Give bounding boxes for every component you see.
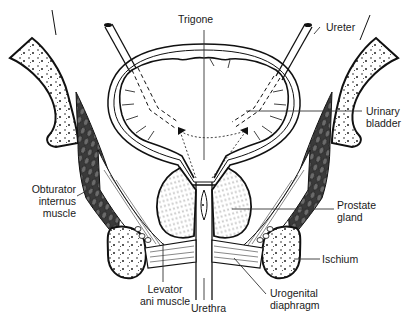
diagram-drawing [0,0,408,317]
label-ischium: Ischium [322,253,358,265]
label-levator-ani: Levator ani muscle [135,283,195,307]
label-urethra: Urethra [191,302,226,314]
label-urogenital-diaphragm: Urogenital diaphragm [270,287,320,311]
label-ureter: Ureter [326,21,355,33]
label-trigone: Trigone [178,13,213,25]
label-urinary-bladder: Urinary bladder [366,105,401,129]
left-pelvic-bone [10,10,78,147]
label-obturator-internus: Obturator internus muscle [18,183,76,219]
anatomy-diagram: Trigone Ureter Urinary bladder Obturator… [0,0,408,317]
label-prostate-gland: Prostate gland [337,199,376,223]
